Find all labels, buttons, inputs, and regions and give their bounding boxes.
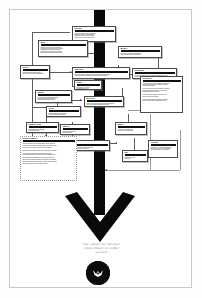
poster-page: PROCESS Lorem ipsum dolor sit amet conse… (0, 0, 202, 298)
node-body: Itaque earum rerum hic tenetur a sapient… (87, 103, 122, 106)
node-body: Neque porro quisquam est qui dolorem ips… (121, 53, 160, 56)
node-body: Et harum quidem rerum facilis est et exp… (49, 113, 79, 116)
node-body: Voluptates repudiandae sint et molestiae… (118, 129, 145, 132)
title-rule (77, 84, 100, 85)
circular-emblem-logo (86, 261, 110, 285)
node-body: Lorem ipsum dolor sit amet consectetur a… (143, 83, 181, 102)
flow-node-n15[interactable]: END Itaque earum rerum hic tenetur (122, 150, 148, 162)
flow-node-n2[interactable]: INPUT Duis aute irure dolor in reprehend… (38, 40, 88, 57)
arrow-tip (80, 99, 82, 101)
connector (50, 72, 72, 73)
title-rule (29, 126, 57, 127)
flow-node-n10[interactable]: TERMINAL NODE Temporibus autem quibusdam… (26, 122, 59, 133)
poster-sheet: PROCESS Lorem ipsum dolor sit amet conse… (9, 9, 192, 288)
arrow-tip (105, 169, 107, 171)
title-rule (151, 144, 176, 145)
node-body: Duis aute irure dolor in reprehenderit i… (41, 47, 86, 54)
connector (180, 130, 181, 170)
node-body: Nemo enim ipsam voluptatem quia voluptas… (75, 74, 128, 77)
node-body: Itaque earum rerum hic tenetur (125, 157, 146, 160)
flow-node-n8[interactable]: REVIEW At vero eos et accusamus et iusto… (35, 90, 72, 103)
connector (32, 107, 46, 108)
connector (105, 170, 180, 171)
title-rule (23, 69, 48, 70)
flow-node-n5[interactable]: BRANCH Neque porro quisquam est qui dolo… (118, 46, 162, 58)
connector (32, 32, 70, 33)
title-rule (38, 94, 70, 95)
title-rule (87, 100, 122, 101)
flow-node-n4[interactable]: CORE STEP Nemo enim ipsam voluptatem qui… (72, 67, 130, 79)
flow-node-n17[interactable]: LEGEND / SUMMARY Sed ut perspiciatis und… (20, 136, 77, 181)
node-body: Temporibus autem quibusdam et aut offici… (29, 129, 57, 132)
connector (72, 78, 73, 86)
title-rule (49, 110, 79, 111)
flow-node-n12[interactable]: SUBTASK Omnis dolor repellendus temporib… (60, 124, 90, 135)
node-body: Omnis dolor repellendus temporibus autem (63, 131, 88, 134)
arrow-tip (115, 142, 117, 144)
title-rule (135, 72, 175, 73)
node-body: Lorem ipsum dolor sit amet consectetur a… (75, 33, 114, 39)
node-body: Quis autem vel eum iure reprehenderit qu… (77, 87, 100, 90)
central-arrow-head (65, 192, 135, 242)
title-rule (23, 140, 75, 141)
caption-line-3: system (10, 251, 192, 255)
title-rule (41, 44, 86, 45)
handwritten-caption: the wheel of nations from chaos to order… (10, 242, 192, 255)
node-body: Sed ut perspiciatis unde omnis iste natu… (23, 72, 48, 75)
title-rule (143, 80, 181, 81)
title-rule (75, 71, 128, 72)
title-rule (75, 30, 114, 31)
node-body: At vero eos et accusamus et iusto odio d… (38, 97, 70, 101)
flow-node-n9[interactable]: PHASE Et harum quidem rerum facilis est … (46, 106, 81, 117)
node-body: Sed ut perspiciatis unde omnis iste natu… (23, 143, 75, 165)
title-rule (118, 126, 145, 127)
title-rule (63, 128, 88, 129)
title-rule (125, 154, 146, 155)
flow-node-n7[interactable]: CHECK Quis autem vel eum iure reprehende… (74, 80, 102, 90)
flow-node-n18[interactable]: APPENDIX Ut aliquid ex ea commodi conseq… (148, 140, 178, 158)
title-rule (121, 50, 160, 51)
flow-node-n16[interactable]: NOTE & KEY Lorem ipsum dolor sit amet co… (140, 76, 183, 113)
flow-node-n3[interactable]: STAGE A Sed ut perspiciatis unde omnis i… (20, 65, 50, 79)
flow-node-n14[interactable]: MERGE Voluptates repudiandae sint et mol… (115, 122, 147, 135)
flow-node-n11[interactable]: MAIN HUB Itaque earum rerum hic tenetur … (84, 96, 124, 107)
node-body: Ut aliquid ex ea commodi consequatur qui… (151, 147, 176, 151)
